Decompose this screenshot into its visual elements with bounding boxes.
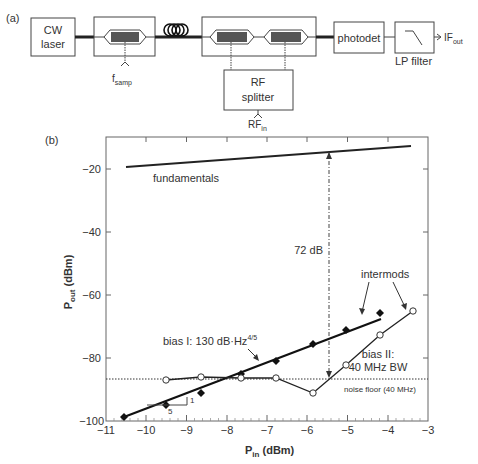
bias2-label-line2: 40 MHz BW <box>349 361 408 373</box>
arrow-icon <box>359 308 365 315</box>
electrode <box>111 32 139 42</box>
noise-floor-label: noise floor (40 MHz) <box>344 385 416 394</box>
x-tick-labels: −11−10−9 −8−7−6 −5−4−3 <box>97 424 434 436</box>
if-out-label: IFout <box>444 32 463 45</box>
svg-text:RF: RF <box>251 76 266 88</box>
svg-text:laser: laser <box>41 38 65 50</box>
svg-text:−40: −40 <box>82 226 101 238</box>
chart-plot: −20 −40 −60 −80 −100 −11−10−9 −8−7−6 −5−… <box>62 137 434 459</box>
svg-text:−10: −10 <box>137 424 156 436</box>
panel-b-label: (b) <box>45 134 58 146</box>
svg-text:5: 5 <box>168 407 173 416</box>
svg-text:photodet: photodet <box>338 32 381 44</box>
arrow-icon <box>401 303 407 310</box>
svg-text:−5: −5 <box>341 424 354 436</box>
dual-modulator <box>202 17 316 70</box>
svg-text:−6: −6 <box>301 424 314 436</box>
svg-text:−60: −60 <box>82 289 101 301</box>
lp-filter-block: LP filter <box>395 22 434 67</box>
svg-text:RFin: RFin <box>248 119 267 132</box>
sampling-modulator: fsamp <box>94 17 155 87</box>
svg-text:−11: −11 <box>97 424 115 436</box>
fiber-spool-icon <box>164 24 188 36</box>
svg-text:1: 1 <box>190 396 195 405</box>
y-axis-ticks <box>106 169 428 358</box>
svg-text:CW: CW <box>44 24 63 36</box>
fundamentals-label: fundamentals <box>153 172 220 184</box>
bias2-label-line1: bias II: <box>362 348 394 360</box>
bias1-label: bias I: 130 dB·Hz4/5 <box>163 334 257 347</box>
y-tick-labels: −20 −40 −60 −80 −100 <box>79 163 104 427</box>
panel-a-label: (a) <box>6 12 19 24</box>
intermods-label: intermods <box>361 268 410 280</box>
svg-text:fsamp: fsamp <box>112 73 132 87</box>
fundamentals-line <box>126 146 411 167</box>
svg-text:−20: −20 <box>82 163 101 175</box>
svg-text:−3: −3 <box>422 424 435 436</box>
svg-text:−8: −8 <box>221 424 234 436</box>
svg-text:−9: −9 <box>180 424 193 436</box>
svg-text:−80: −80 <box>82 352 101 364</box>
sfdr-label: 72 dB <box>294 244 323 256</box>
photodetector-block: photodet <box>334 22 384 53</box>
svg-text:splitter: splitter <box>242 91 275 103</box>
svg-text:LP filter: LP filter <box>395 55 432 67</box>
svg-text:−4: −4 <box>382 424 395 436</box>
x-axis-title: Pin (dBm) <box>245 444 295 459</box>
svg-text:−7: −7 <box>261 424 274 436</box>
rf-splitter-block: RF splitter RFin <box>224 70 293 132</box>
figure: (a) CW laser fsamp <box>0 0 478 464</box>
cw-laser-block: CW laser <box>31 18 75 56</box>
y-axis-title: Pout (dBm) <box>62 254 77 309</box>
